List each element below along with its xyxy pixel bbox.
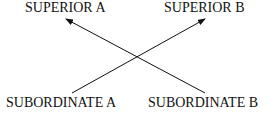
arrows-canvas <box>0 0 279 116</box>
